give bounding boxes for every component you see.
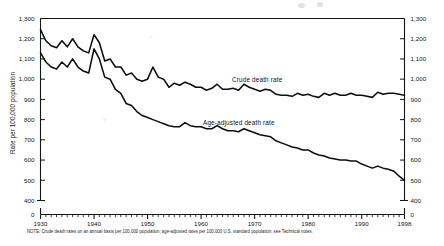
y-tick-label-left: 1,000 xyxy=(19,75,35,82)
y-tick-label-left: 0 xyxy=(31,211,35,218)
y-tick-label-right: 1,000 xyxy=(411,75,427,82)
y-tick-label-right: 500 xyxy=(411,177,422,184)
age-adjusted-death-rate-line xyxy=(41,49,405,180)
y-axis-title-text: Rate per 100,000 population xyxy=(9,72,17,155)
y-tick-label-right: 1,100 xyxy=(411,55,427,62)
chart-page: 1,3001,2001,1001,0009008007006005004000 … xyxy=(0,0,444,246)
y-tick-label-right: 1,200 xyxy=(411,35,427,42)
y-tick-label-left: 900 xyxy=(24,96,35,103)
plot-frame xyxy=(37,19,408,215)
y-tick-label-right: 700 xyxy=(411,136,422,143)
x-tick-label: 1940 xyxy=(87,220,101,227)
y-tick-label-right: 400 xyxy=(411,197,422,204)
y-tick-label-right: 1,300 xyxy=(411,15,427,22)
x-tick-label: 1950 xyxy=(141,220,155,227)
chart-footnote: NOTE: Crude death rates on an annual bas… xyxy=(27,229,439,235)
x-tick-label: 1990 xyxy=(355,220,369,227)
x-tick-label: 1930 xyxy=(34,220,48,227)
y-tick-label-left: 1,100 xyxy=(19,55,35,62)
death-rate-line-chart: 1,3001,2001,1001,0009008007006005004000 … xyxy=(0,0,444,246)
chart-canvas: 1,3001,2001,1001,0009008007006005004000 … xyxy=(0,0,444,246)
y-tick-label-left: 500 xyxy=(24,177,35,184)
crude-death-rate-label: Crude death rate xyxy=(232,76,283,83)
y-axis-title: Rate per 100,000 population xyxy=(9,72,17,155)
series-annotations: Crude death rateAge-adjusted death rate xyxy=(203,76,283,127)
y-tick-label-left: 400 xyxy=(24,197,35,204)
x-tick-label: 1980 xyxy=(301,220,315,227)
data-series-group xyxy=(41,30,405,181)
y-tick-label-right: 900 xyxy=(411,96,422,103)
y-tick-label-left: 700 xyxy=(24,136,35,143)
y-tick-label-left: 600 xyxy=(24,156,35,163)
age-adjusted-death-rate-label: Age-adjusted death rate xyxy=(203,119,275,127)
y-tick-label-right: 600 xyxy=(411,156,422,163)
x-tick-label: 1998 xyxy=(398,220,412,227)
x-tick-label: 1960 xyxy=(194,220,208,227)
crude-death-rate-line xyxy=(41,30,405,98)
y-tick-label-left: 1,200 xyxy=(19,35,35,42)
y-tick-label-left: 1,300 xyxy=(19,15,35,22)
y-axis-left: 1,3001,2001,1001,0009008007006005004000 xyxy=(19,15,45,218)
x-axis: 19301940195019601970198019901998 xyxy=(34,215,412,228)
y-tick-label-right: 0 xyxy=(411,211,415,218)
y-tick-label-right: 800 xyxy=(411,116,422,123)
x-tick-label: 1970 xyxy=(248,220,262,227)
y-tick-label-left: 800 xyxy=(24,116,35,123)
